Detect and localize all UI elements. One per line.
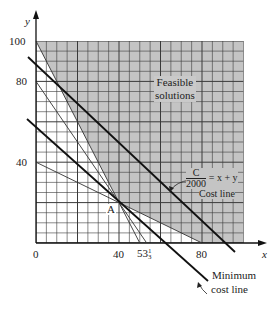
feasible-label-line1: Feasible xyxy=(155,76,195,89)
x-tick-40: 40 xyxy=(113,249,124,260)
minimum-cost-label-line2: cost line xyxy=(211,284,248,295)
y-tick-80: 80 xyxy=(16,76,27,87)
x-axis-label: x xyxy=(262,249,267,260)
x-tick-80: 80 xyxy=(196,249,207,260)
x-tick-53-den: 3 xyxy=(148,254,152,260)
x-tick-0: 0 xyxy=(33,249,39,260)
cost-eq-text: = x + y xyxy=(209,172,238,183)
cost-fraction: C2000 xyxy=(186,168,206,189)
x-tick-53-whole: 53 xyxy=(137,247,148,259)
cost-line-label: Cost line xyxy=(199,189,235,199)
y-tick-40: 40 xyxy=(16,157,27,168)
min-cost-pointer-head-icon xyxy=(197,282,202,288)
y-tick-100: 100 xyxy=(9,36,26,47)
y-axis-arrow-icon xyxy=(33,10,39,19)
minimum-cost-label-line1: Minimum xyxy=(212,270,256,281)
linear-programming-graph xyxy=(0,0,279,309)
point-a-label: A xyxy=(106,204,116,215)
feasible-label-line2: solutions xyxy=(155,89,195,102)
feasible-solutions-label: Feasible solutions xyxy=(154,76,196,102)
x-axis-arrow-icon xyxy=(258,240,267,246)
x-tick-53-1-3: 5313 xyxy=(137,248,152,260)
cost-equation-label: C2000 = x + y xyxy=(186,168,238,189)
y-axis-label: y xyxy=(25,16,30,27)
